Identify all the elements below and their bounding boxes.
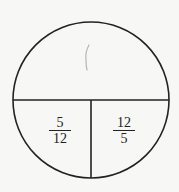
pencil-mark (86, 45, 89, 70)
fraction-denominator: 12 (53, 132, 67, 145)
fraction-denominator: 5 (121, 132, 128, 145)
fraction-numerator: 5 (57, 116, 64, 129)
circle-diagram (0, 0, 179, 192)
fraction-bottom-right: 12 5 (113, 116, 135, 145)
fraction-bottom-left: 5 12 (49, 116, 71, 145)
fraction-numerator: 12 (117, 116, 131, 129)
